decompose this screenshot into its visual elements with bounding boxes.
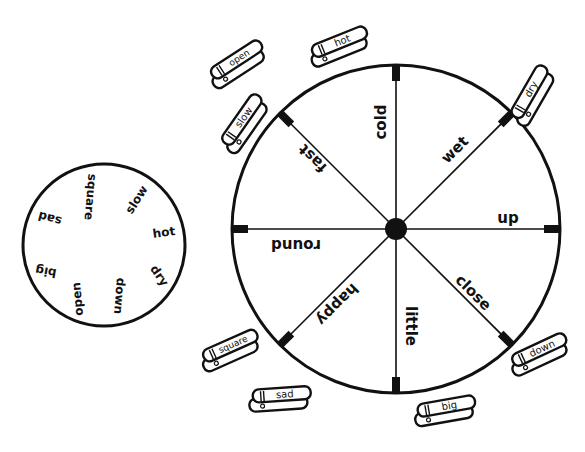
segment-word: round [271,236,321,254]
clothespin-open[interactable]: open [205,38,269,90]
clothespin-sad[interactable]: sad [248,386,311,412]
opposites-diagram: square slow hot dry down open big sad [0,0,585,452]
clothespin-label: sad [276,388,294,400]
hub-fastener [385,218,407,240]
segment-word: cold [372,104,390,139]
clothespin-big[interactable]: big [413,395,478,427]
small-wheel-rim [23,164,185,326]
big-wheel: cold wet up close little happy round fas… [232,65,560,393]
small-wheel-word: open [69,282,86,317]
segment-word: up [497,209,519,227]
small-wheel[interactable]: square slow hot dry down open big sad [23,164,185,326]
clothespin-square[interactable]: square [198,328,264,373]
clothespin-hot[interactable]: hot [306,25,372,69]
segment-word: little [402,306,420,346]
